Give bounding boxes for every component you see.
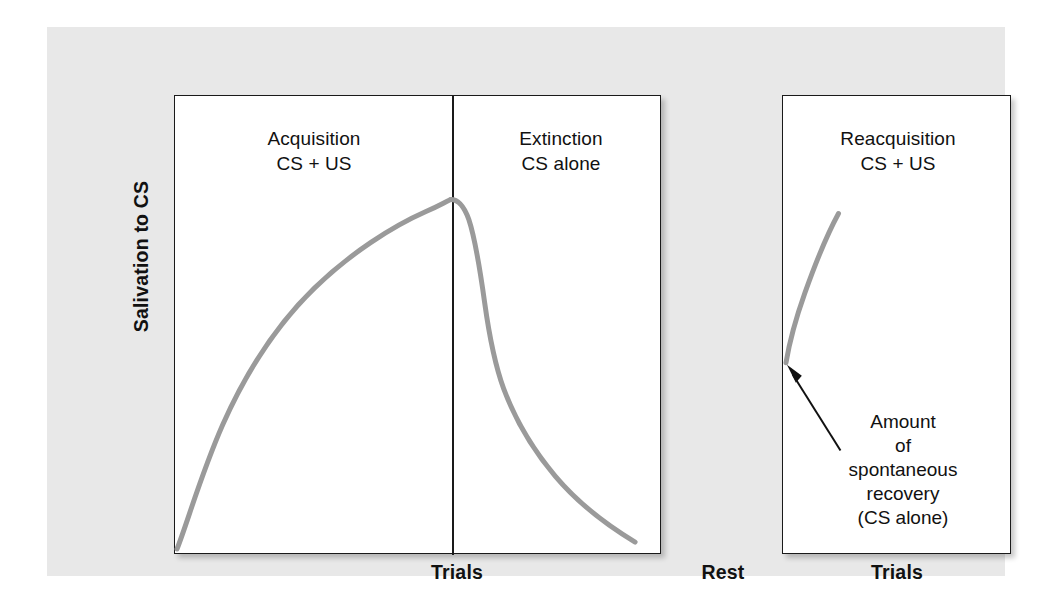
figure-page: Acquisition CS + US Extinction CS alone … [0,0,1052,613]
figure-plate: Acquisition CS + US Extinction CS alone … [47,27,1005,576]
x-axis-label-rest: Rest [663,561,783,584]
spontaneous-recovery-annotation: Amount of spontaneous recovery (CS alone… [799,410,1007,530]
x-axis-label-left: Trials [377,561,537,584]
y-axis-label: Salivation to CS [130,142,153,372]
right-panel: Reacquisition CS + US Amount of spontane… [782,95,1011,554]
extinction-curve [451,200,635,543]
reacquisition-curve [786,213,839,362]
left-panel-curves [175,96,660,553]
acquisition-curve [177,200,451,549]
x-axis-label-right: Trials [837,561,957,584]
left-panel: Acquisition CS + US Extinction CS alone [174,95,661,554]
